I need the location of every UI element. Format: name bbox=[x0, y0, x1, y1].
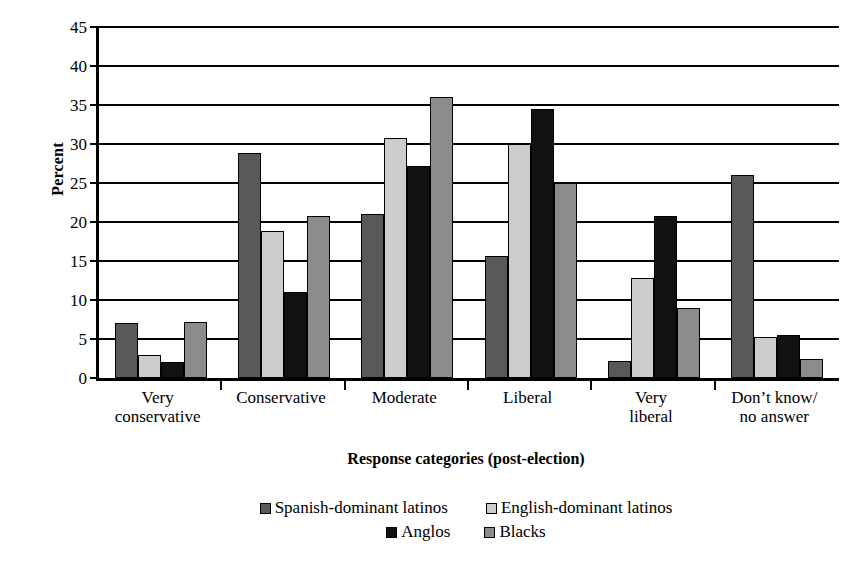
x-axis-tick-label-line: Don’t know/ bbox=[713, 388, 836, 407]
bar bbox=[307, 216, 330, 378]
x-axis-tick-label: Don’t know/no answer bbox=[713, 388, 836, 426]
bar bbox=[654, 216, 677, 378]
legend-label: Anglos bbox=[401, 522, 450, 542]
legend-item[interactable]: English-dominant latinos bbox=[486, 498, 672, 518]
bar-group bbox=[716, 27, 839, 378]
y-axis-tick-label: 20 bbox=[49, 214, 87, 231]
legend-swatch-icon bbox=[486, 503, 497, 514]
y-axis-tick bbox=[90, 260, 99, 262]
y-axis-tick bbox=[90, 221, 99, 223]
y-axis-tick-label: 15 bbox=[49, 253, 87, 270]
legend-row: AnglosBlacks bbox=[386, 522, 545, 542]
y-axis-tick bbox=[90, 299, 99, 301]
bar-group bbox=[222, 27, 345, 378]
y-axis-tick-label: 45 bbox=[49, 19, 87, 36]
x-axis-tick-label-line: no answer bbox=[713, 407, 836, 426]
bar bbox=[407, 166, 430, 378]
y-axis-tick bbox=[90, 104, 99, 106]
bar bbox=[284, 292, 307, 378]
bar-group bbox=[592, 27, 715, 378]
bar bbox=[238, 153, 261, 378]
bar bbox=[608, 361, 631, 378]
y-axis-title: Percent bbox=[49, 119, 67, 219]
y-axis-tick-label: 10 bbox=[49, 292, 87, 309]
bar bbox=[731, 175, 754, 378]
x-axis-tick-label-line: Very bbox=[589, 388, 712, 407]
y-axis-tick bbox=[90, 65, 99, 67]
bar bbox=[754, 337, 777, 378]
bar bbox=[508, 144, 531, 378]
bar-chart-figure: Percent 051015202530354045 Veryconservat… bbox=[0, 0, 852, 587]
bar bbox=[430, 97, 453, 378]
bar bbox=[554, 183, 577, 378]
legend-swatch-icon bbox=[484, 527, 495, 538]
legend-item[interactable]: Blacks bbox=[484, 522, 545, 542]
x-axis-tick-label: Veryconservative bbox=[96, 388, 219, 426]
x-axis-tick-label: Conservative bbox=[219, 388, 342, 426]
legend-label: Spanish-dominant latinos bbox=[275, 498, 448, 518]
plot-area: 051015202530354045 bbox=[96, 27, 839, 381]
bar bbox=[361, 214, 384, 378]
bar bbox=[531, 109, 554, 378]
legend-row: Spanish-dominant latinosEnglish-dominant… bbox=[260, 498, 673, 518]
legend-swatch-icon bbox=[386, 527, 397, 538]
x-axis-tick-label: Liberal bbox=[466, 388, 589, 426]
x-axis-title: Response categories (post-election) bbox=[96, 450, 836, 468]
x-axis-tick-label-line: Very bbox=[96, 388, 219, 407]
bar bbox=[777, 335, 800, 378]
x-axis-tick-label-line: liberal bbox=[589, 407, 712, 426]
y-axis-tick-label: 0 bbox=[49, 370, 87, 387]
y-axis-tick bbox=[90, 182, 99, 184]
bar-group bbox=[99, 27, 222, 378]
legend-item[interactable]: Spanish-dominant latinos bbox=[260, 498, 448, 518]
bar bbox=[384, 138, 407, 378]
x-axis-tick-label-line: Moderate bbox=[343, 388, 466, 407]
y-axis-tick-label: 35 bbox=[49, 97, 87, 114]
bar bbox=[138, 355, 161, 378]
bar bbox=[677, 308, 700, 378]
y-axis-tick-label: 30 bbox=[49, 136, 87, 153]
x-axis-tick-label: Veryliberal bbox=[589, 388, 712, 426]
legend-item[interactable]: Anglos bbox=[386, 522, 450, 542]
bar bbox=[115, 323, 138, 378]
legend-swatch-icon bbox=[260, 503, 271, 514]
legend-label: English-dominant latinos bbox=[501, 498, 672, 518]
bar bbox=[184, 322, 207, 378]
x-axis-tick-label-line: Liberal bbox=[466, 388, 589, 407]
x-axis-tick-labels: VeryconservativeConservativeModerateLibe… bbox=[96, 388, 836, 426]
bar-group bbox=[469, 27, 592, 378]
y-axis-tick bbox=[90, 377, 99, 379]
y-axis-tick bbox=[90, 143, 99, 145]
y-axis-tick-label: 40 bbox=[49, 58, 87, 75]
y-axis-tick bbox=[90, 26, 99, 28]
x-axis-tick-label-line: conservative bbox=[96, 407, 219, 426]
bar bbox=[161, 362, 184, 378]
bar-group bbox=[346, 27, 469, 378]
y-axis-tick bbox=[90, 338, 99, 340]
bar-groups bbox=[99, 27, 839, 378]
x-axis-tick-label-line: Conservative bbox=[219, 388, 342, 407]
legend-label: Blacks bbox=[499, 522, 545, 542]
y-axis-tick-label: 5 bbox=[49, 331, 87, 348]
x-axis-tick-label: Moderate bbox=[343, 388, 466, 426]
bar bbox=[485, 256, 508, 378]
y-axis-tick-label: 25 bbox=[49, 175, 87, 192]
chart-legend: Spanish-dominant latinosEnglish-dominant… bbox=[96, 498, 836, 542]
bar bbox=[631, 278, 654, 378]
bar bbox=[800, 359, 823, 378]
bar bbox=[261, 231, 284, 378]
